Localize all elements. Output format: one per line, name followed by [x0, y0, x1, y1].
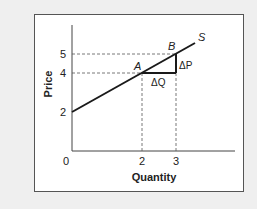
delta-p-label: ΔP [179, 60, 193, 71]
y-tick-4: 4 [60, 67, 66, 79]
y-axis-label: Price [42, 71, 54, 98]
y-tick-2: 2 [60, 106, 66, 118]
curve-s-label: S [198, 31, 206, 43]
point-a-label: A [133, 60, 141, 72]
point-b-label: B [168, 40, 175, 52]
supply-curve-chart: 2 4 5 0 2 3 Quantity Price A B S ΔP ΔQ [0, 0, 257, 209]
delta-q-label: ΔQ [151, 77, 166, 88]
x-axis-label: Quantity [132, 171, 177, 183]
origin-label: 0 [63, 155, 69, 167]
x-tick-3: 3 [173, 155, 179, 167]
y-tick-5: 5 [60, 48, 66, 60]
supply-line [72, 43, 195, 112]
x-tick-2: 2 [139, 155, 145, 167]
